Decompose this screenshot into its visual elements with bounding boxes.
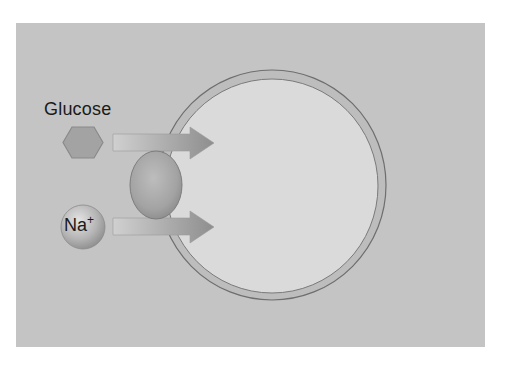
glucose-hexagon-icon <box>63 127 103 158</box>
diagram-canvas <box>0 0 506 368</box>
glucose-label: Glucose <box>44 99 111 120</box>
sodium-symbol: Na <box>64 215 87 235</box>
sodium-label: Na+ <box>64 215 94 236</box>
diagram-stage: Glucose Na+ <box>0 0 506 368</box>
sodium-charge: + <box>87 213 94 227</box>
transporter-protein-icon <box>130 151 182 219</box>
cell-cytoplasm <box>166 79 378 293</box>
